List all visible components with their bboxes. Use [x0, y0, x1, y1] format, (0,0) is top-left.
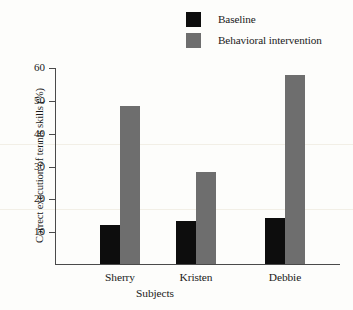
bar-kristen-behavioral-intervention: [196, 172, 216, 264]
y-axis-tick: 30: [49, 167, 56, 168]
x-axis-line: [55, 264, 340, 265]
legend-item-baseline: Baseline: [186, 9, 351, 30]
x-axis-tick-label-kristen: Kristen: [156, 271, 236, 283]
y-axis-tick-label: 30: [34, 160, 45, 173]
legend-swatch-behavioral-intervention: [186, 33, 201, 48]
bar-sherry-baseline: [100, 225, 120, 264]
x-axis-title: Subjects: [95, 287, 215, 299]
y-axis-tick-label: 60: [34, 61, 45, 74]
bar-debbie-behavioral-intervention: [285, 75, 305, 264]
bar-group-debbie: [265, 68, 305, 264]
y-axis-tick-label: 10: [34, 225, 45, 238]
legend-swatch-baseline: [186, 12, 201, 27]
y-axis-tick-label: 50: [34, 94, 45, 107]
x-axis-tick-label-sherry: Sherry: [80, 271, 160, 283]
x-axis-tick-label-debbie: Debbie: [245, 271, 325, 283]
y-axis-tick: 20: [49, 199, 56, 200]
legend-label-baseline: Baseline: [218, 14, 256, 25]
y-axis-tick-label: 40: [34, 127, 45, 140]
y-axis-tick: 50: [49, 101, 56, 102]
y-axis-tick: 60: [49, 68, 56, 69]
bar-chart-figure: Baseline Behavioral intervention Correct…: [0, 0, 353, 310]
bar-group-sherry: [100, 68, 140, 264]
bar-group-kristen: [176, 68, 216, 264]
chart-legend: Baseline Behavioral intervention: [186, 9, 351, 51]
plot-area: 60 50 40 30 20 10 Sherry: [55, 68, 340, 265]
bar-kristen-baseline: [176, 221, 196, 264]
legend-item-behavioral-intervention: Behavioral intervention: [186, 30, 351, 51]
y-axis-tick-label: 20: [34, 192, 45, 205]
y-axis-tick: 40: [49, 134, 56, 135]
legend-label-behavioral-intervention: Behavioral intervention: [218, 35, 322, 46]
y-axis-tick: 10: [49, 232, 56, 233]
bar-sherry-behavioral-intervention: [120, 106, 140, 264]
bar-debbie-baseline: [265, 218, 285, 264]
